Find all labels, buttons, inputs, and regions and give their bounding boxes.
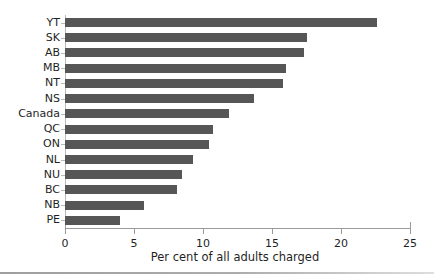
bar-row[interactable] — [65, 76, 410, 91]
bar[interactable] — [65, 201, 144, 210]
y-axis-tick — [61, 160, 65, 161]
category-label-pe: PE — [0, 214, 60, 225]
y-axis-tick — [61, 99, 65, 100]
category-label-ab: AB — [0, 47, 60, 58]
category-label-ns: NS — [0, 93, 60, 104]
category-label-nb: NB — [0, 199, 60, 210]
bar-chart-figure: YTSKABMBNTNSCanadaQCONNLNUBCNBPE 0510152… — [0, 0, 434, 279]
bar-row[interactable] — [65, 182, 410, 197]
category-label-qc: QC — [0, 123, 60, 134]
bar[interactable] — [65, 140, 209, 149]
bar-row[interactable] — [65, 152, 410, 167]
x-axis-tick-mark — [272, 229, 273, 234]
category-label-nt: NT — [0, 77, 60, 88]
y-axis-tick — [61, 129, 65, 130]
plot-area — [65, 15, 410, 228]
bar[interactable] — [65, 170, 182, 179]
y-axis-tick — [61, 205, 65, 206]
x-axis-tick-label-20: 20 — [321, 238, 361, 250]
x-axis-spine — [65, 228, 410, 229]
bar-row[interactable] — [65, 213, 410, 228]
x-axis-tick-mark — [203, 229, 204, 234]
bar-row[interactable] — [65, 61, 410, 76]
y-axis-tick — [61, 114, 65, 115]
y-axis-tick — [61, 83, 65, 84]
bar[interactable] — [65, 109, 229, 118]
y-axis-tick — [61, 23, 65, 24]
x-axis-tick-mark — [65, 229, 66, 234]
x-axis-title: Per cent of all adults charged — [0, 250, 434, 264]
bar-row[interactable] — [65, 167, 410, 182]
y-axis-tick — [61, 68, 65, 69]
footer-divider — [0, 272, 434, 274]
y-axis-tick — [61, 190, 65, 191]
bar[interactable] — [65, 185, 177, 194]
bar-row[interactable] — [65, 198, 410, 213]
bar[interactable] — [65, 48, 304, 57]
y-axis-tick — [61, 175, 65, 176]
category-label-nl: NL — [0, 154, 60, 165]
x-axis-tick-label-5: 5 — [114, 238, 154, 250]
category-label-yt: YT — [0, 17, 60, 28]
x-axis-tick-label-25: 25 — [390, 238, 430, 250]
bar[interactable] — [65, 125, 213, 134]
bar-row[interactable] — [65, 122, 410, 137]
category-label-on: ON — [0, 138, 60, 149]
x-axis-tick-label-0: 0 — [45, 238, 85, 250]
x-axis-tick-label-10: 10 — [183, 238, 223, 250]
x-axis-tick-mark — [134, 229, 135, 234]
bar-row[interactable] — [65, 30, 410, 45]
x-axis-tick-mark — [410, 229, 411, 234]
y-axis-tick — [61, 220, 65, 221]
bar-row[interactable] — [65, 106, 410, 121]
bar[interactable] — [65, 155, 193, 164]
y-axis-tick — [61, 38, 65, 39]
bar[interactable] — [65, 33, 307, 42]
bar[interactable] — [65, 79, 283, 88]
category-label-mb: MB — [0, 62, 60, 73]
bar-row[interactable] — [65, 45, 410, 60]
bar-row[interactable] — [65, 15, 410, 30]
y-axis-tick — [61, 144, 65, 145]
bar[interactable] — [65, 216, 120, 225]
x-axis-tick-mark — [341, 229, 342, 234]
x-axis-right-cap — [410, 222, 411, 229]
category-label-canada: Canada — [0, 108, 60, 119]
bar-row[interactable] — [65, 137, 410, 152]
x-axis-tick-label-15: 15 — [252, 238, 292, 250]
category-label-sk: SK — [0, 32, 60, 43]
bar[interactable] — [65, 64, 286, 73]
bar-rows — [65, 15, 410, 228]
category-label-bc: BC — [0, 184, 60, 195]
category-label-nu: NU — [0, 169, 60, 180]
bar[interactable] — [65, 18, 377, 27]
bar[interactable] — [65, 94, 254, 103]
bar-row[interactable] — [65, 91, 410, 106]
y-axis-tick — [61, 53, 65, 54]
